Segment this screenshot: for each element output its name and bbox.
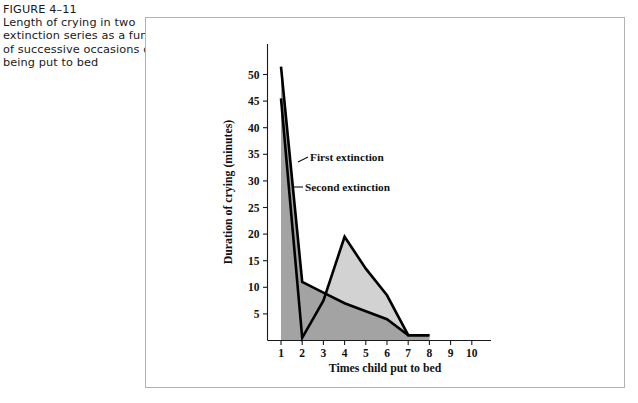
- figure-frame: [145, 17, 625, 388]
- caption-line-2: Length of crying in two: [3, 16, 138, 29]
- figure-caption: FIGURE 4–11 Length of crying in two exti…: [3, 3, 138, 69]
- caption-line-1: FIGURE 4–11: [3, 3, 138, 16]
- caption-line-4: of successive occasions of: [3, 43, 138, 56]
- caption-line-3: extinction series as a function: [3, 29, 138, 42]
- caption-line-5: being put to bed: [3, 56, 138, 69]
